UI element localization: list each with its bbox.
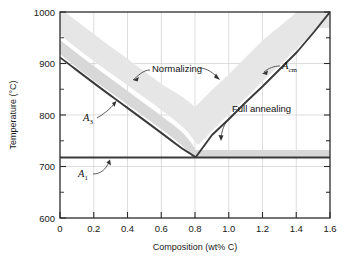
- x-axis-title: Composition (wt% C): [153, 242, 238, 252]
- a1-label-subscript: 1: [84, 174, 88, 182]
- xtick-label-0: 0: [57, 223, 62, 234]
- ytick-label-900: 900: [39, 58, 55, 69]
- ytick-label-700: 700: [39, 161, 55, 172]
- ytick-label-1000: 1000: [34, 7, 55, 18]
- normalizing-label: Normalizing: [152, 63, 202, 74]
- full-annealing-label: Full annealing: [232, 103, 291, 114]
- acm-label-subscript: cm: [288, 66, 297, 74]
- xtick-label-0.2: 0.2: [87, 223, 100, 234]
- xtick-label-1.2: 1.2: [256, 223, 269, 234]
- ytick-label-600: 600: [39, 213, 55, 224]
- ytick-label-800: 800: [39, 110, 55, 121]
- xtick-label-1.6: 1.6: [323, 223, 336, 234]
- x-axis-tick-labels: 0 0.2 0.4 0.6 0.8 1.0 1.2 1.4 1.6: [57, 223, 336, 234]
- a3-label-subscript: 3: [89, 118, 93, 126]
- phase-diagram-figure: 1000 900 800 700 600 0 0.2 0.4 0.6 0.8 1…: [0, 0, 350, 267]
- xtick-label-1.4: 1.4: [290, 223, 303, 234]
- y-axis-title: Temperature (°C): [8, 80, 18, 149]
- xtick-label-0.8: 0.8: [188, 223, 201, 234]
- xtick-label-0.6: 0.6: [155, 223, 168, 234]
- xtick-label-1.0: 1.0: [222, 223, 235, 234]
- xtick-label-0.4: 0.4: [121, 223, 134, 234]
- heat-treatment-phase-diagram: 1000 900 800 700 600 0 0.2 0.4 0.6 0.8 1…: [0, 0, 350, 267]
